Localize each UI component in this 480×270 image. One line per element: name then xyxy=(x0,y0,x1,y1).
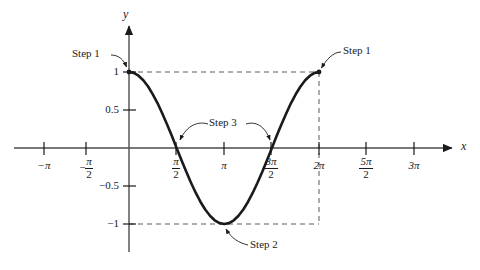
y-tick-label--1: −1 xyxy=(95,218,119,229)
x-tick-text--pi: −π xyxy=(38,159,51,171)
x-tick-text-3pi: 3π xyxy=(408,159,419,171)
step-2-leader xyxy=(226,229,248,245)
x-tick-text-2pi: 2π xyxy=(313,159,324,171)
x-tick-den--pi-over-2: 2 xyxy=(85,169,93,181)
x-tick-label--pi: −π xyxy=(30,160,58,171)
step-3-leader-left xyxy=(180,123,208,140)
x-axis-label: x xyxy=(461,140,466,152)
x-tick-den-5pi-over-2: 2 xyxy=(359,169,372,181)
endpoint-dot-right xyxy=(317,70,322,75)
y-tick-label-1: 1 xyxy=(101,66,119,77)
x-tick-label-3pi: 3π xyxy=(400,160,428,171)
x-tick-den-pi-over-2: 2 xyxy=(172,169,180,181)
x-tick-num-3pi-over-2: 3π xyxy=(264,156,277,169)
x-tick-num-5pi-over-2: 5π xyxy=(359,156,372,169)
annotation-step-1-left: Step 1 xyxy=(72,48,100,59)
y-axis-label: y xyxy=(123,8,128,20)
x-tick-label-3pi-over-2: 3π2 xyxy=(255,156,287,180)
step-1-right-leader xyxy=(322,52,342,68)
step-3-leader-right xyxy=(246,123,270,140)
x-tick-label-pi-over-2: π2 xyxy=(162,156,190,180)
cosine-graph-figure: y x 1 0.5 −0.5 −1 −π −π2 π2 π 3π2 2π 5π2… xyxy=(0,0,480,270)
x-tick-label--pi-over-2: −π2 xyxy=(68,156,104,180)
x-tick-den-3pi-over-2: 2 xyxy=(264,169,277,181)
plot-canvas xyxy=(0,0,480,270)
x-tick-text-pi: π xyxy=(221,159,227,171)
annotation-step-3: Step 3 xyxy=(209,117,237,128)
annotation-step-1-right: Step 1 xyxy=(343,45,371,56)
x-tick-num--pi-over-2: π xyxy=(85,156,93,169)
y-tick-label-0-5: 0.5 xyxy=(89,104,119,115)
y-tick-label--0-5: −0.5 xyxy=(83,180,119,191)
endpoint-dot-left xyxy=(127,70,132,75)
x-tick-label-2pi: 2π xyxy=(305,160,333,171)
annotation-step-2: Step 2 xyxy=(250,239,278,250)
x-tick-num-pi-over-2: π xyxy=(172,156,180,169)
x-tick-label-5pi-over-2: 5π2 xyxy=(350,156,382,180)
x-tick-label-pi: π xyxy=(210,160,238,171)
